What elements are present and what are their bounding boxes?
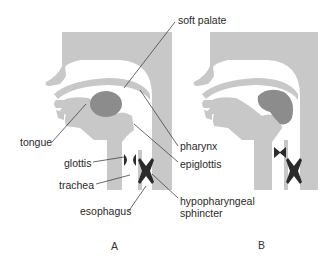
sphincter-b xyxy=(286,158,302,184)
panel-label-a: A xyxy=(111,240,118,252)
label-trachea: trachea xyxy=(59,179,94,191)
soft-palate-bulge-a xyxy=(90,91,122,117)
glottis-b xyxy=(274,147,286,158)
anatomy-figure: soft palate tongue pharynx glottis epigl… xyxy=(0,0,332,265)
glottis-a xyxy=(124,154,136,166)
label-soft-palate: soft palate xyxy=(178,14,226,26)
label-sphincter-line1: hypopharyngeal xyxy=(180,195,255,207)
diagram-svg xyxy=(0,0,332,265)
label-esophagus: esophagus xyxy=(80,205,131,217)
panel-label-b: B xyxy=(258,239,265,251)
label-glottis: glottis xyxy=(64,157,91,169)
label-sphincter-line2: sphincter xyxy=(180,207,223,219)
label-pharynx: pharynx xyxy=(180,140,217,152)
label-tongue: tongue xyxy=(20,136,52,148)
label-epiglottis: epiglottis xyxy=(180,158,221,170)
